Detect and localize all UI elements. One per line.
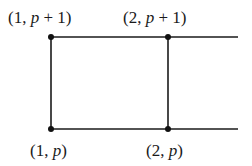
label-variable: p bbox=[31, 8, 40, 27]
label-variable: p bbox=[146, 8, 155, 27]
label-prefix: (2, bbox=[123, 8, 146, 27]
nodes bbox=[48, 34, 171, 132]
label-suffix: + 1) bbox=[39, 8, 71, 27]
node-2-p bbox=[165, 126, 171, 132]
label-node-1-p-plus-1: (1, p + 1) bbox=[8, 9, 71, 26]
label-suffix: ) bbox=[177, 141, 183, 160]
label-node-1-p: (1, p) bbox=[30, 142, 67, 159]
label-prefix: (1, bbox=[30, 141, 53, 160]
label-variable: p bbox=[53, 141, 62, 160]
label-node-2-p: (2, p) bbox=[146, 142, 183, 159]
node-1-p bbox=[48, 126, 54, 132]
label-variable: p bbox=[169, 141, 178, 160]
node-2-p-plus-1 bbox=[165, 34, 171, 40]
edges bbox=[51, 37, 238, 129]
label-suffix: + 1) bbox=[154, 8, 186, 27]
label-prefix: (1, bbox=[8, 8, 31, 27]
label-suffix: ) bbox=[61, 141, 67, 160]
node-1-p-plus-1 bbox=[48, 34, 54, 40]
label-prefix: (2, bbox=[146, 141, 169, 160]
label-node-2-p-plus-1: (2, p + 1) bbox=[123, 9, 186, 26]
